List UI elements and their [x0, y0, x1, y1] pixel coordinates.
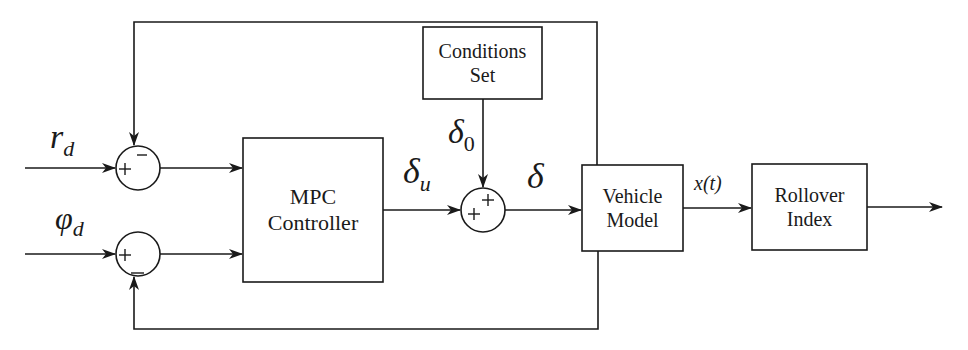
conditions-set-label: ConditionsSet	[423, 27, 542, 99]
rollover-index-label: RolloverIndex	[752, 164, 867, 250]
signal-label-delta-u: δu	[403, 150, 431, 197]
signal-label-delta-0: δ0	[448, 113, 475, 157]
sum-junction-3	[461, 188, 505, 232]
sum-junction-1	[116, 146, 160, 190]
input-label-phid: φd	[55, 200, 84, 242]
signal-label-state: x(t)	[694, 172, 722, 195]
vehicle-model-label: VehicleModel	[582, 165, 683, 251]
input-label-rd: rd	[50, 118, 74, 162]
signal-label-delta: δ	[527, 155, 544, 197]
mpc-controller-label: MPCController	[243, 138, 383, 282]
sum-junction-2	[116, 232, 160, 276]
